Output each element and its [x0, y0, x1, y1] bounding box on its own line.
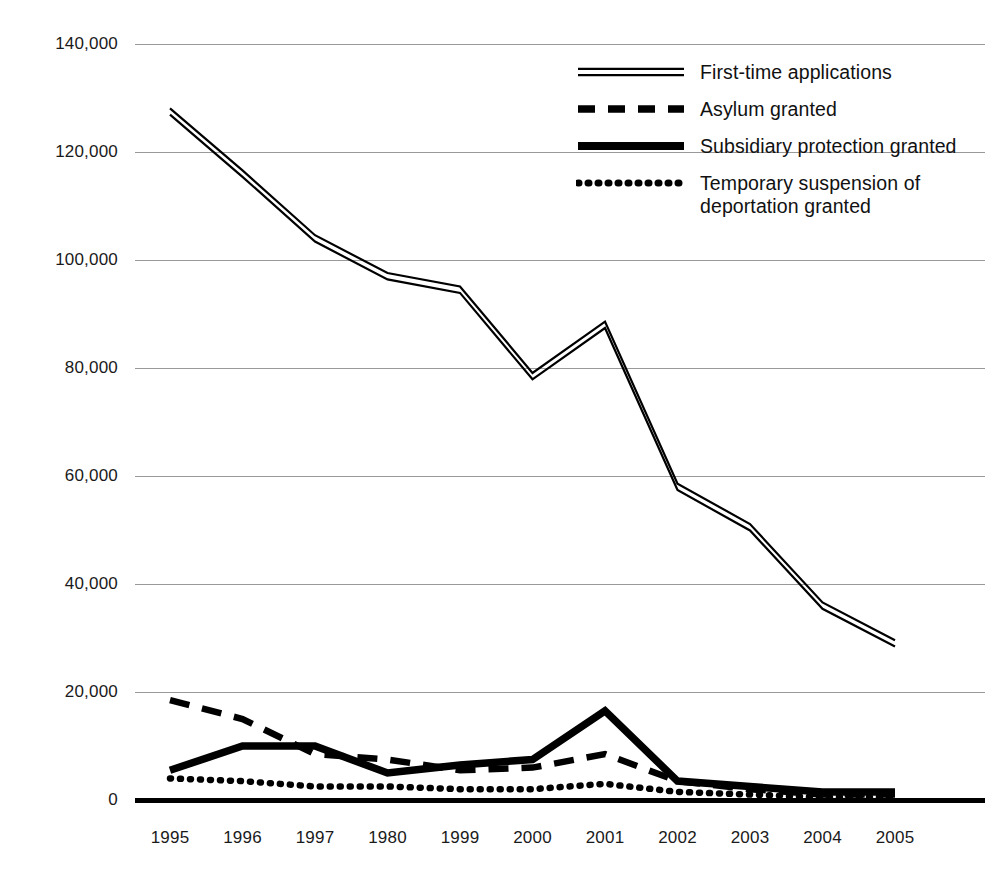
series-line: [170, 711, 895, 792]
x-axis-tick-label: 1996: [223, 828, 262, 848]
x-axis-tick-label: 2001: [586, 828, 625, 848]
x-axis-tick-label: 1999: [441, 828, 480, 848]
legend-item-label: Subsidiary protection granted: [700, 134, 957, 158]
y-axis-tick-label: 60,000: [0, 466, 118, 486]
legend-swatch-double-thin-line: [576, 60, 686, 84]
legend-item[interactable]: Asylum granted: [576, 97, 996, 123]
y-axis-tick-label: 20,000: [0, 682, 118, 702]
legend-line-icon: [576, 60, 686, 84]
legend-item-label: First-time applications: [700, 60, 892, 84]
legend-swatch-dashed: [576, 97, 686, 121]
legend-line-icon: [576, 97, 686, 121]
y-axis-tick-label: 40,000: [0, 574, 118, 594]
x-axis-tick-label: 2003: [731, 828, 770, 848]
line-chart: 140,000120,000100,00080,00060,00040,0002…: [0, 0, 999, 889]
x-axis-tick-label: 2002: [658, 828, 697, 848]
legend-item-label: Temporary suspension of deportation gran…: [700, 171, 996, 218]
y-axis-tick-label: 0: [0, 790, 118, 810]
x-axis-tick-label: 2004: [803, 828, 842, 848]
x-axis-tick-label: 1997: [296, 828, 335, 848]
legend-item-label: Asylum granted: [700, 97, 837, 121]
x-axis-tick-label: 1995: [151, 828, 190, 848]
y-axis-tick-label: 120,000: [0, 142, 118, 162]
chart-legend: First-time applicationsAsylum grantedSub…: [576, 60, 996, 229]
legend-item[interactable]: Temporary suspension of deportation gran…: [576, 171, 996, 218]
y-axis-tick-label: 80,000: [0, 358, 118, 378]
y-axis-tick-label: 140,000: [0, 34, 118, 54]
series-line-stroke: [170, 711, 895, 792]
x-axis-tick-label: 1980: [368, 828, 407, 848]
legend-item[interactable]: Subsidiary protection granted: [576, 134, 996, 160]
legend-swatch-thick-solid: [576, 134, 686, 158]
legend-item[interactable]: First-time applications: [576, 60, 996, 86]
x-axis-tick-label: 2005: [876, 828, 915, 848]
y-axis-tick-label: 100,000: [0, 250, 118, 270]
legend-line-icon: [576, 171, 686, 195]
legend-line-icon: [576, 134, 686, 158]
x-axis-tick-label: 2000: [513, 828, 552, 848]
legend-swatch-dotted: [576, 171, 686, 195]
